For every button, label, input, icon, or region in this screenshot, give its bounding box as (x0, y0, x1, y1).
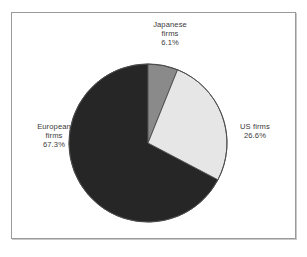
pie-label-european-line1: European (14, 122, 94, 131)
pie-label-japanese-firms: Japanese firms 6.1% (129, 20, 211, 47)
pie-label-japanese-line1: Japanese (129, 20, 211, 29)
pie-label-us-value: 26.6% (222, 131, 288, 140)
pie-label-european-line2: firms (14, 131, 94, 140)
pie-label-japanese-line2: firms (129, 29, 211, 38)
pie-label-japanese-value: 6.1% (129, 38, 211, 47)
pie-label-us-line1: US firms (222, 122, 288, 131)
pie-label-european-value: 67.3% (14, 140, 94, 149)
pie-chart-figure: Japanese firms 6.1% US firms 26.6% Europ… (0, 0, 307, 257)
pie-label-european-firms: European firms 67.3% (14, 122, 94, 149)
pie-label-us-firms: US firms 26.6% (222, 122, 288, 140)
